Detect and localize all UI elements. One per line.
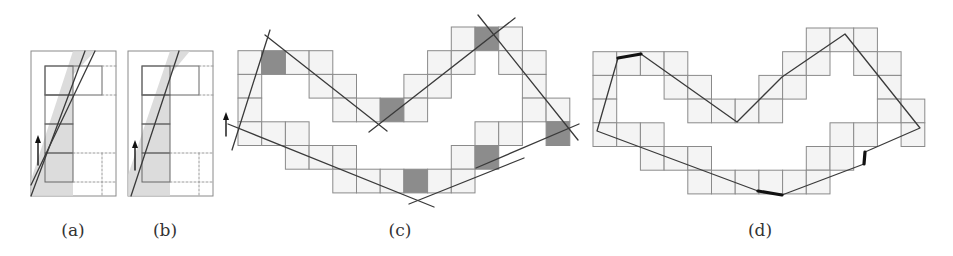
grid-cell: [333, 74, 357, 98]
grid-cell: [475, 122, 499, 146]
grid-cell: [712, 99, 736, 123]
tangent-line: [228, 124, 434, 207]
grid-cell: [854, 123, 878, 147]
grid-cell: [499, 27, 523, 51]
grid-cell: [640, 147, 664, 171]
grid-cell: [428, 74, 452, 98]
grid-cell: [877, 99, 901, 123]
grid-cell: [806, 52, 830, 76]
grid-cell: [451, 27, 475, 51]
grid-cell: [428, 169, 452, 193]
grid-cell: [712, 170, 736, 194]
panel-label-d: (d): [748, 220, 772, 240]
grid-cell: [688, 170, 712, 194]
tangent-line: [265, 35, 387, 131]
panel-label-c: (c): [389, 220, 412, 240]
grid-cell: [830, 123, 854, 147]
grid-cell: [333, 169, 357, 193]
grid-cell: [309, 146, 333, 170]
grid-cell: [806, 170, 830, 194]
grid-cell: [380, 169, 404, 193]
grid-cell: [522, 98, 546, 122]
grid-cell: [333, 98, 357, 122]
grid-cell: [830, 147, 854, 171]
tangent-line: [369, 18, 515, 132]
figure-canvas: [0, 0, 953, 256]
panel-d: [593, 28, 925, 195]
grid-cell: [333, 146, 357, 170]
panel-label-a: (a): [61, 220, 84, 240]
grid-cell: [593, 123, 617, 147]
arrow-up-icon: [223, 112, 229, 120]
grid-cell: [783, 75, 807, 99]
grid-cell: [806, 147, 830, 171]
grid-cell: [522, 51, 546, 75]
grid-cell: [499, 122, 523, 146]
grid-cell: [593, 52, 617, 76]
grid-cell: [759, 99, 783, 123]
grid-cell: [854, 28, 878, 52]
grid-cell: [640, 52, 664, 76]
grid-cell: [664, 52, 688, 76]
grid-cell: [546, 98, 570, 122]
panel-b: [128, 51, 213, 196]
grid-cell: [238, 51, 262, 75]
grid-cell: [451, 146, 475, 170]
dark-cell: [262, 51, 286, 75]
grid-cell: [854, 52, 878, 76]
grid-cell: [451, 51, 475, 75]
grid-cell: [238, 122, 262, 146]
grid-cell: [688, 99, 712, 123]
panel-label-b: (b): [153, 220, 177, 240]
grid-cell: [759, 75, 783, 99]
grid-cell: [735, 99, 759, 123]
grid-cell: [877, 52, 901, 76]
grid-cell: [806, 28, 830, 52]
grid-cell: [593, 75, 617, 99]
grid-cell: [640, 123, 664, 147]
panel-c: [223, 15, 579, 207]
panel-a: [31, 51, 116, 196]
grid-cell: [285, 122, 309, 146]
grid-cell: [664, 147, 688, 171]
grid-cell: [404, 74, 428, 98]
dark-cell: [475, 146, 499, 170]
grid-cell: [309, 51, 333, 75]
dark-cell: [404, 169, 428, 193]
grid-cell: [451, 169, 475, 193]
dark-cell: [380, 98, 404, 122]
grid-cell: [499, 51, 523, 75]
thick-segment: [864, 152, 865, 164]
